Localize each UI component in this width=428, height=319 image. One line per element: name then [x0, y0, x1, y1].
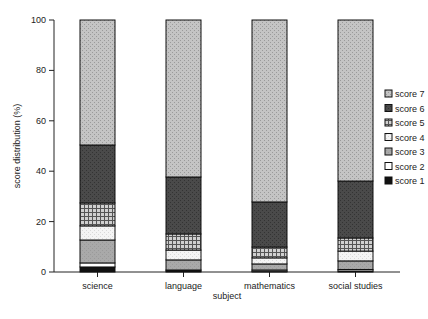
- y-axis: 020406080100: [31, 15, 54, 277]
- legend-label: score 3: [395, 147, 425, 157]
- bar-stack-language: [166, 20, 201, 272]
- legend-item: score 4: [385, 133, 425, 143]
- y-tick-label: 100: [31, 15, 46, 25]
- legend: score 7score 6score 5score 4score 3score…: [385, 89, 425, 186]
- legend-item: score 7: [385, 89, 425, 99]
- bar-segment-score-7: [166, 20, 201, 177]
- y-tick-label: 40: [36, 166, 46, 176]
- bar-stack-social-studies: [338, 20, 373, 272]
- bars: [80, 20, 373, 272]
- bar-segment-score-7: [338, 20, 373, 181]
- legend-label: score 4: [395, 133, 425, 143]
- legend-swatch: [385, 134, 392, 141]
- bar-segment-score-3: [252, 264, 287, 270]
- legend-item: score 3: [385, 147, 425, 157]
- bar-segment-score-5: [80, 203, 115, 226]
- bar-segment-score-5: [338, 238, 373, 251]
- x-tick-label: social studies: [328, 281, 383, 291]
- legend-label: score 2: [395, 162, 425, 172]
- legend-item: score 6: [385, 104, 425, 114]
- y-tick-label: 60: [36, 116, 46, 126]
- bar-segment-score-4: [338, 251, 373, 261]
- legend-swatch: [385, 105, 392, 112]
- bar-segment-score-6: [252, 202, 287, 247]
- legend-item: score 5: [385, 118, 425, 128]
- x-axis-title: subject: [213, 291, 242, 301]
- stacked-bar-chart: 020406080100 sciencelanguagemathematicss…: [0, 0, 428, 319]
- legend-swatch: [385, 119, 392, 126]
- bar-segment-score-4: [166, 250, 201, 260]
- bar-segment-score-1: [80, 267, 115, 272]
- y-tick-label: 0: [41, 267, 46, 277]
- bar-stack-science: [80, 20, 115, 272]
- x-tick-label: language: [165, 281, 202, 291]
- bar-segment-score-4: [252, 258, 287, 264]
- bar-segment-score-2: [80, 263, 115, 267]
- legend-swatch: [385, 163, 392, 170]
- y-tick-label: 20: [36, 217, 46, 227]
- legend-swatch: [385, 148, 392, 155]
- bar-segment-score-3: [338, 261, 373, 270]
- bar-segment-score-7: [252, 20, 287, 202]
- bar-segment-score-6: [166, 177, 201, 234]
- x-axis: sciencelanguagemathematicssocial studies: [54, 272, 400, 291]
- x-tick-label: mathematics: [244, 281, 296, 291]
- legend-label: score 1: [395, 176, 425, 186]
- legend-swatch: [385, 90, 392, 97]
- y-tick-label: 80: [36, 65, 46, 75]
- bar-segment-score-5: [252, 247, 287, 258]
- legend-swatch: [385, 177, 392, 184]
- legend-label: score 7: [395, 89, 425, 99]
- legend-label: score 6: [395, 104, 425, 114]
- bar-segment-score-6: [338, 181, 373, 238]
- bar-stack-mathematics: [252, 20, 287, 272]
- legend-item: score 1: [385, 176, 425, 186]
- legend-item: score 2: [385, 162, 425, 172]
- x-tick-label: science: [82, 281, 113, 291]
- y-axis-title: score distribution (%): [12, 104, 22, 189]
- bar-segment-score-4: [80, 226, 115, 240]
- bar-segment-score-5: [166, 234, 201, 250]
- legend-label: score 5: [395, 118, 425, 128]
- bar-segment-score-3: [80, 240, 115, 263]
- bar-segment-score-7: [80, 20, 115, 145]
- bar-segment-score-3: [166, 260, 201, 270]
- bar-segment-score-6: [80, 145, 115, 203]
